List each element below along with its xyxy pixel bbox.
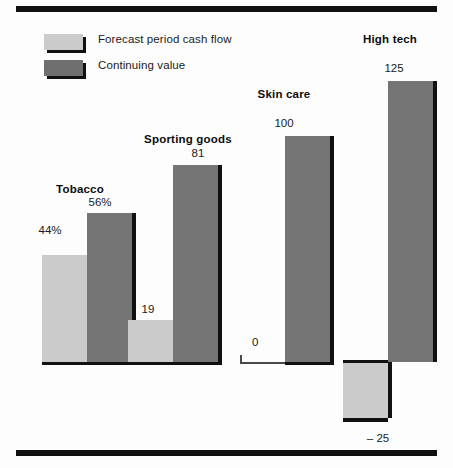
value-label-sporting-forecast: 19	[124, 303, 172, 315]
value-label-high-tech-forecast: – 25	[348, 432, 408, 444]
zero-tick-horizontal-icon	[240, 362, 290, 364]
bar-high-tech-forecast	[343, 362, 388, 418]
bar-tobacco-continuing	[87, 213, 132, 362]
baseline-skin-care	[285, 362, 334, 365]
value-label-skin-care-continuing: 100	[260, 117, 308, 129]
exhibit-figure: Forecast period cash flow Continuing val…	[0, 0, 453, 468]
chart-plot-area: Tobacco 44% 56% Sporting goods 19 81 Ski…	[0, 0, 453, 468]
value-label-sporting-continuing: 81	[174, 147, 222, 159]
baseline-high-tech	[343, 360, 388, 363]
bar-skin-care-continuing	[285, 136, 330, 362]
group-title-skin-care: Skin care	[219, 88, 349, 100]
value-label-tobacco-continuing: 56%	[76, 196, 124, 208]
value-label-high-tech-continuing: 125	[370, 62, 418, 74]
bar-sporting-continuing	[173, 165, 218, 362]
group-title-high-tech: High tech	[330, 33, 450, 45]
baseline-tobacco	[42, 362, 136, 365]
bar-tobacco-forecast	[42, 255, 87, 362]
group-title-sporting-goods: Sporting goods	[118, 133, 258, 145]
value-label-tobacco-forecast: 44%	[26, 224, 74, 236]
axis-zero-label: 0	[252, 336, 258, 348]
bar-sporting-forecast	[128, 320, 173, 362]
bar-high-tech-continuing	[388, 81, 433, 362]
group-title-tobacco: Tobacco	[20, 183, 140, 195]
baseline-sporting-goods	[128, 362, 222, 365]
